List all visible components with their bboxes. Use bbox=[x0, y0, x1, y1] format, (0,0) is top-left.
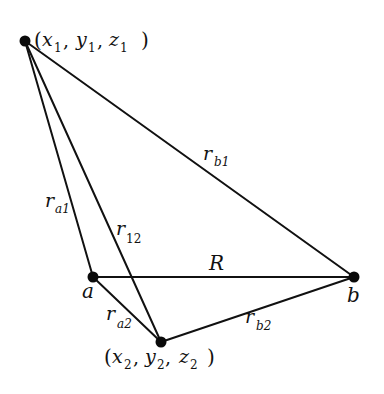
coord-y2-sub: 2 bbox=[157, 358, 165, 372]
coord-y1: y bbox=[75, 28, 87, 50]
coord-y1-sub: 1 bbox=[88, 41, 96, 55]
coord-x2-sub: 2 bbox=[124, 358, 132, 372]
paren-open: ( bbox=[34, 28, 42, 52]
label-a: a bbox=[82, 279, 94, 303]
label-p1-coords: ( x 1 , y 1 , z 1 ) bbox=[34, 28, 149, 55]
two-center-diagram: ( x 1 , y 1 , z 1 ) ( x 2 , y 2 , z 2 ) … bbox=[0, 0, 384, 394]
edge-rb1 bbox=[25, 41, 354, 277]
label-ra2-sub: a2 bbox=[117, 317, 132, 331]
coord-y2: y bbox=[144, 345, 156, 367]
edge-ra2 bbox=[93, 277, 161, 342]
label-ra2-r: r bbox=[106, 302, 117, 324]
label-ra2: r a2 bbox=[106, 302, 132, 331]
comma: , bbox=[133, 346, 139, 368]
coord-x1-sub: 1 bbox=[54, 41, 62, 55]
coord-z2: z bbox=[178, 345, 190, 367]
label-b: b bbox=[347, 283, 360, 307]
label-ra1-sub: a1 bbox=[55, 202, 70, 216]
coord-z2-sub: 2 bbox=[190, 358, 198, 372]
node-p1 bbox=[20, 36, 31, 47]
coord-x2: x bbox=[112, 345, 123, 367]
paren-open: ( bbox=[104, 345, 112, 369]
label-ra1: r a1 bbox=[45, 189, 70, 216]
paren-close: ) bbox=[141, 28, 149, 52]
label-R: R bbox=[208, 251, 224, 275]
label-rb1-sub: b1 bbox=[214, 155, 229, 169]
label-rb2-r: r bbox=[245, 305, 256, 327]
coord-z1: z bbox=[108, 28, 120, 50]
label-r12: r 12 bbox=[116, 217, 141, 246]
coord-x1: x bbox=[42, 28, 53, 50]
comma: , bbox=[97, 29, 103, 51]
label-rb1-r: r bbox=[203, 142, 214, 164]
edge-ra1 bbox=[25, 41, 93, 277]
node-b bbox=[349, 272, 360, 283]
coord-z1-sub: 1 bbox=[120, 41, 128, 55]
label-r12-sub: 12 bbox=[126, 232, 141, 246]
paren-close: ) bbox=[207, 345, 215, 369]
comma: , bbox=[165, 346, 171, 368]
label-p2-coords: ( x 2 , y 2 , z 2 ) bbox=[104, 345, 215, 372]
label-rb1: r b1 bbox=[203, 142, 229, 169]
label-rb2-sub: b2 bbox=[256, 319, 271, 333]
comma: , bbox=[63, 29, 69, 51]
